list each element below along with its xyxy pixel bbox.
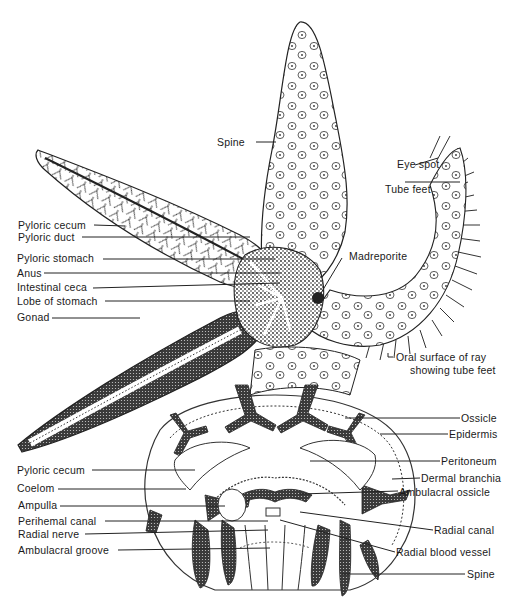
label-pyloric-stomach: Pyloric stomach — [17, 252, 94, 264]
label-anus: Anus — [17, 267, 42, 279]
label-oral-surface-line1: Oral surface of ray — [396, 351, 486, 363]
label-epidermis: Epidermis — [449, 428, 497, 440]
label-ampulla: Ampulla — [18, 499, 57, 511]
label-ambulacral-ossicle: Ambulacral ossicle — [399, 486, 490, 498]
label-oral-surface-line2: showing tube feet — [410, 364, 496, 376]
label-madreporite: Madreporite — [349, 250, 407, 262]
label-ambulacral-groove: Ambulacral groove — [18, 544, 109, 556]
label-peritoneum: Peritoneum — [441, 455, 497, 467]
label-coelom: Coelom — [17, 482, 54, 494]
ray-cross-section — [145, 385, 415, 596]
label-gonad: Gonad — [17, 311, 50, 323]
label-radial-nerve: Radial nerve — [18, 528, 79, 540]
label-radial-blood-vessel: Radial blood vessel — [396, 546, 491, 558]
label-lobe-of-stomach: Lobe of stomach — [17, 295, 98, 307]
label-pyloric-duct: Pyloric duct — [18, 231, 75, 243]
label-pyloric-cecum-top: Pyloric cecum — [18, 219, 86, 231]
label-spine-top: Spine — [217, 136, 245, 148]
label-eye-spot: Eye spot — [397, 158, 439, 170]
label-tube-feet: Tube feet — [385, 183, 431, 195]
label-dermal-branchia: Dermal branchia — [421, 472, 501, 484]
label-perihemal-canal: Perihemal canal — [18, 515, 96, 527]
label-spine-bottom: Spine — [467, 568, 495, 580]
label-radial-canal: Radial canal — [434, 524, 494, 536]
label-pyloric-cecum-bottom: Pyloric cecum — [17, 464, 85, 476]
label-ossicle: Ossicle — [461, 412, 497, 424]
label-intestinal-ceca: Intestinal ceca — [17, 281, 87, 293]
